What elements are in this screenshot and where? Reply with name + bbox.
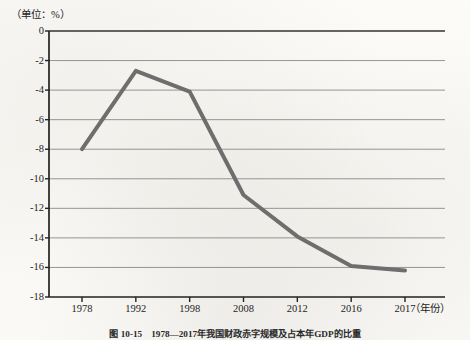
x-axis-tick-label: 1992	[125, 303, 146, 314]
x-axis-tick-label: 2008	[233, 303, 254, 314]
x-axis-tick-label: 2016	[341, 303, 362, 314]
figure-caption: 图 10-15 1978—2017年我国财政赤字规模及占本年GDP的比重	[0, 329, 470, 340]
figure-page: （单位：%） 0-2-4-6-8-10-12-14-16-18 19781992…	[0, 0, 470, 340]
y-axis-tick-labels: 0-2-4-6-8-10-12-14-16-18	[6, 31, 44, 297]
y-axis-tick-label: 0	[10, 26, 44, 37]
y-axis-tick-label: -2	[10, 56, 44, 67]
x-axis-tick-labels: 1978199219982008201220162017	[49, 303, 445, 319]
y-axis-tick-label: -10	[10, 174, 44, 185]
x-axis-unit-label: （年份）	[410, 303, 450, 314]
y-axis-tick-label: -6	[10, 115, 44, 126]
chart-plot-area	[49, 31, 445, 297]
chart-svg	[49, 31, 445, 297]
y-axis-tick-label: -4	[10, 85, 44, 96]
x-axis-tick-label: 1978	[72, 303, 93, 314]
y-axis-tick-label: -14	[10, 233, 44, 244]
y-axis-tick-label: -8	[10, 144, 44, 155]
x-axis-tick-label: 1998	[179, 303, 200, 314]
x-axis-tick-label: 2012	[287, 303, 308, 314]
data-series-line	[82, 71, 405, 271]
y-axis-unit-label: （单位：%）	[11, 6, 70, 21]
y-axis-tick-label: -12	[10, 203, 44, 214]
y-axis-tick-label: -18	[10, 292, 44, 303]
y-axis-tick-label: -16	[10, 262, 44, 273]
gridlines	[49, 31, 445, 267]
